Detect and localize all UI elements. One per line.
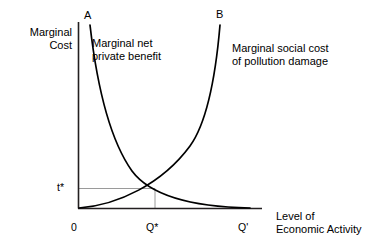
tick-label-t-star: t* [57,182,64,193]
externality-diagram: Marginal Cost Level of Economic Activity… [0,0,383,250]
curve-endpoint-label-b: B [216,9,223,20]
curve-endpoint-label-a: A [84,10,91,21]
x-axis-label: Level of Economic Activity [276,210,380,236]
curve-label-marginal-social-cost: Marginal social cost of pollution damage [232,42,378,68]
origin-label: 0 [71,222,77,233]
curve-label-marginal-net-private-benefit: Marginal net private benefit [92,37,192,63]
tick-label-q-prime: Q' [238,222,248,233]
tick-label-q-star: Q* [146,222,158,233]
y-axis-label: Marginal Cost [4,26,72,52]
